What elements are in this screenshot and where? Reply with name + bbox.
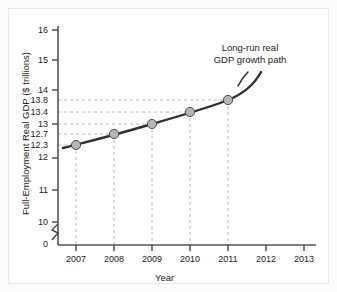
data-point-2011 <box>223 95 232 104</box>
x-axis-ticks <box>76 245 304 251</box>
data-point-2008 <box>109 129 118 138</box>
x-tick-label-2008: 2008 <box>97 254 131 264</box>
y-axis-title: Full-Employment Real GDP ($ trillions) <box>20 49 31 219</box>
series-annotation-line-1: Long-run real <box>190 42 310 54</box>
y-tick-label-16: 16 <box>14 25 48 35</box>
horizontal-guide-lines <box>58 100 228 145</box>
series-annotation: Long-run real GDP growth path <box>190 42 310 66</box>
y-tick-label-10: 10 <box>14 217 48 227</box>
data-point-2007 <box>71 140 80 149</box>
annotation-leader-line <box>238 72 248 86</box>
gdp-growth-path-chart: 16 15 14 13.8 13.4 13 12.7 12.3 12 11 10… <box>0 0 337 292</box>
growth-path-curve <box>63 72 261 148</box>
data-point-2010 <box>185 107 194 116</box>
x-tick-label-2010: 2010 <box>173 254 207 264</box>
y-axis-ticks <box>52 30 58 222</box>
x-tick-label-2011: 2011 <box>211 254 245 264</box>
x-axis-title: Year <box>155 272 174 283</box>
x-tick-label-2012: 2012 <box>249 254 283 264</box>
y-tick-label-0: 0 <box>14 239 48 249</box>
x-tick-label-2009: 2009 <box>135 254 169 264</box>
axis-break-symbol <box>52 224 58 240</box>
x-tick-label-2007: 2007 <box>59 254 93 264</box>
data-point-2009 <box>147 119 156 128</box>
series-annotation-line-2: GDP growth path <box>190 54 310 66</box>
data-point-markers <box>71 95 232 149</box>
x-tick-label-2013: 2013 <box>287 254 321 264</box>
